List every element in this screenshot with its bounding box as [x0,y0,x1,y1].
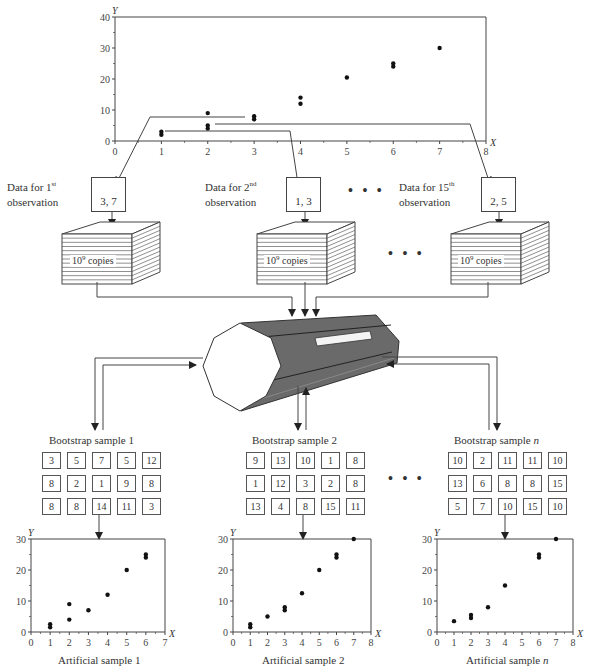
bootstrap-cell: 5 [67,452,86,469]
observation-1-value: 3, 7 [100,195,117,207]
bootstrap-cell: 9 [117,475,136,492]
svg-text:Y: Y [230,527,237,538]
bootstrap-cell: 15 [548,475,567,492]
bootstrap-cell: 10 [296,452,315,469]
bootstrap-cell: 8 [523,475,542,492]
svg-text:20: 20 [218,565,228,576]
observation-15-value: 2, 5 [490,195,507,207]
data-point [437,46,441,50]
data-point [452,619,456,623]
data-point [554,537,558,541]
data-point [248,622,252,626]
bootstrap-cell: 12 [271,475,290,492]
bootstrap-cell: 3 [42,452,61,469]
svg-text:0: 0 [427,627,432,638]
svg-text:8: 8 [571,637,576,648]
data-point [317,568,321,572]
observation-arrows [116,117,490,184]
bootstrap-sample-1-grid: 357512821988814113 [42,452,161,515]
svg-text:10: 10 [422,596,432,607]
data-point [345,75,349,79]
bootstrap-diagram: 012345678010203040XY [0,0,597,670]
observation-1-label: Data for 1st observation [7,180,58,210]
observation-15-box: 2, 5 [481,177,516,212]
bootstrap-cell: 12 [142,452,161,469]
data-point [391,61,395,65]
svg-text:2: 2 [265,637,270,648]
bootstrap-sample-1-title: Bootstrap sample 1 [49,434,134,446]
svg-text:2: 2 [469,637,474,648]
svg-text:5: 5 [520,637,525,648]
bootstrap-cell: 15 [321,498,340,515]
bootstrap-cell: 3 [142,498,161,515]
svg-text:10: 10 [218,596,228,607]
data-point [298,102,302,106]
bootstrap-cell: 8 [42,498,61,515]
svg-text:30: 30 [16,534,26,545]
svg-text:7: 7 [351,637,356,648]
artificial-sample-1-plot: 012345670102030XY [16,527,176,648]
bootstrap-cell: 9 [246,452,265,469]
artificial-sample-1-caption: Artificial sample 1 [58,654,140,666]
svg-text:6: 6 [143,637,148,648]
copies-label-2: 109 copies [264,255,310,267]
svg-text:20: 20 [100,74,110,85]
data-point [298,95,302,99]
observation-2-label: Data for 2nd observation [205,180,257,210]
bootstrap-cell: 11 [498,452,517,469]
data-point [469,613,473,617]
bootstrap-cell: 8 [42,475,61,492]
copies-label-1: 109 copies [70,255,116,267]
svg-text:0: 0 [223,627,228,638]
bootstrap-cell: 5 [117,452,136,469]
svg-text:Y: Y [434,527,441,538]
svg-text:3: 3 [86,637,91,648]
svg-text:30: 30 [218,534,228,545]
svg-text:7: 7 [163,637,168,648]
bootstrap-sample-n-grid: 102111110136881557101510 [448,452,567,515]
bootstrap-ellipsis: • • • [388,471,425,487]
bootstrap-cell: 1 [321,452,340,469]
data-point [352,537,356,541]
bootstrap-cell: 14 [92,498,111,515]
svg-text:1: 1 [248,637,253,648]
data-point [503,583,507,587]
svg-text:X: X [489,137,497,148]
observation-2-box: 1, 3 [286,177,321,212]
svg-text:4: 4 [105,637,110,648]
bootstrap-cell: 10 [498,498,517,515]
svg-text:7: 7 [437,146,442,157]
artificial-sample-2-plot: 0123456780102030XY [218,527,382,648]
bootstrap-cell: 10 [548,498,567,515]
bootstrap-cell: 1 [246,475,265,492]
svg-text:40: 40 [100,12,110,23]
copies-ellipsis: • • • [388,246,425,262]
data-point [67,617,71,621]
svg-text:6: 6 [537,637,542,648]
bootstrap-cell: 7 [92,452,111,469]
original-sample-plot: 012345678010203040XY [100,5,497,157]
svg-text:5: 5 [344,146,349,157]
svg-text:30: 30 [422,534,432,545]
svg-text:6: 6 [391,146,396,157]
data-point [252,114,256,118]
copies-label-15: 109 copies [458,255,504,267]
svg-text:0: 0 [105,136,110,147]
svg-text:0: 0 [21,627,26,638]
svg-text:7: 7 [554,637,559,648]
stack-to-cylinder-arrows [97,282,488,316]
bootstrap-cell: 8 [142,475,161,492]
svg-text:2: 2 [205,146,210,157]
bootstrap-sample-2-title: Bootstrap sample 2 [252,434,337,446]
bootstrap-cell: 8 [346,475,365,492]
svg-text:20: 20 [422,565,432,576]
data-point [48,622,52,626]
data-point [144,552,148,556]
data-point [300,591,304,595]
data-point [86,608,90,612]
bootstrap-cell: 10 [448,452,467,469]
svg-text:3: 3 [282,637,287,648]
svg-text:6: 6 [334,637,339,648]
observation-2-value: 1, 3 [295,195,312,207]
svg-text:0: 0 [29,637,34,648]
